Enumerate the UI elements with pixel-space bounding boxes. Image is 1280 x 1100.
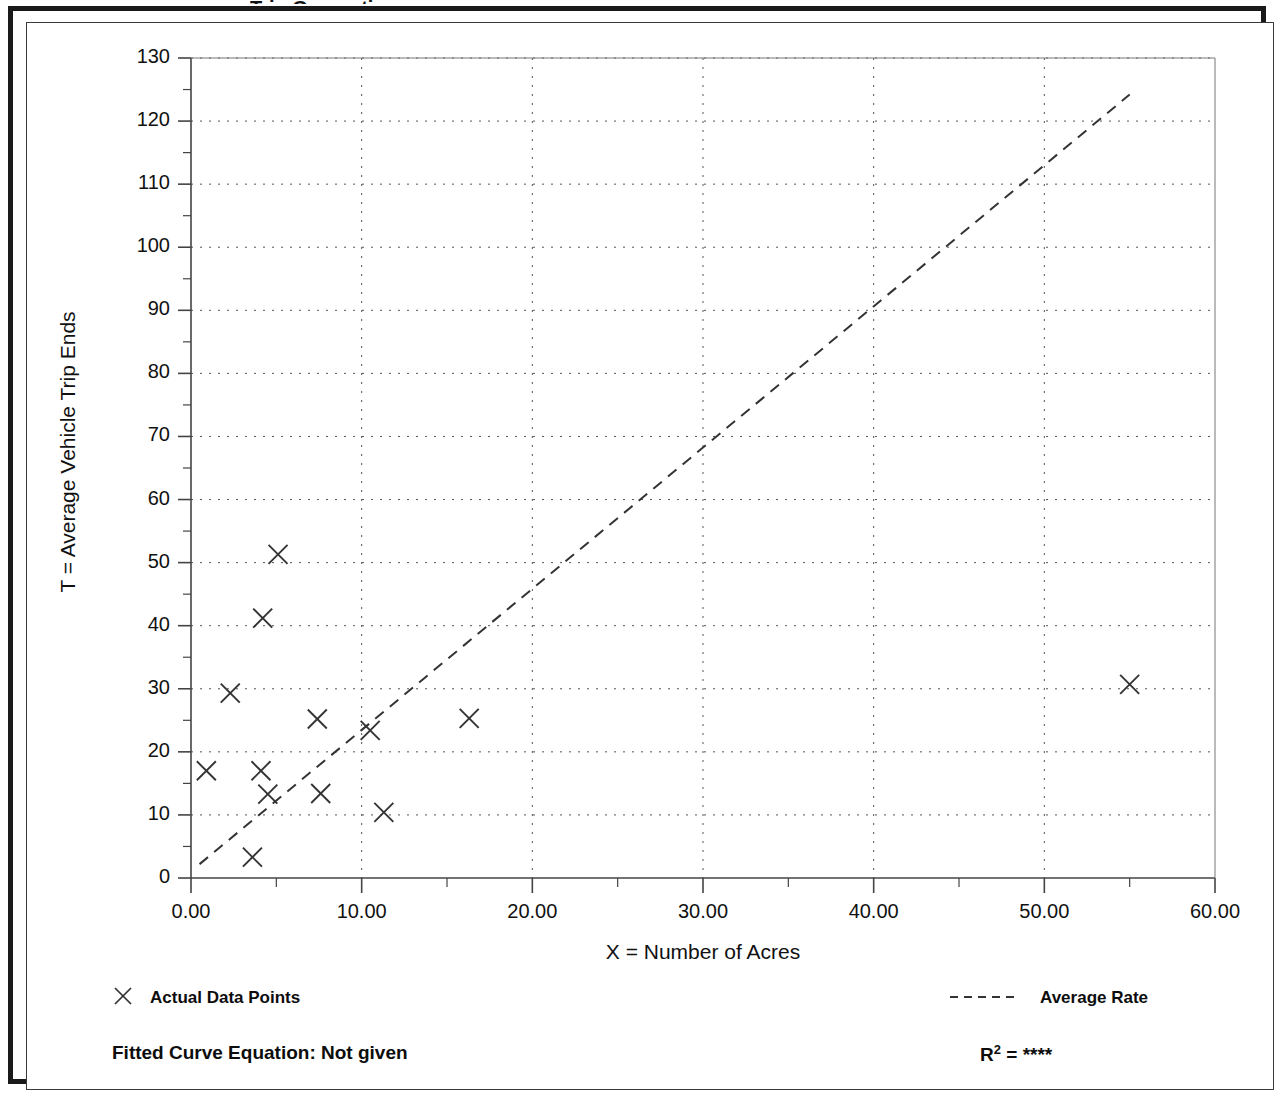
x-axis-tick-label: 0.00 [136,900,246,923]
data-point-marker [361,721,380,740]
average-rate-trendline [200,95,1130,865]
y-axis-tick-label: 10 [100,802,170,825]
r-squared-value: R2 = **** [980,1042,1052,1066]
y-axis-title: T = Average Vehicle Trip Ends [56,292,80,612]
r-exponent: 2 [994,1042,1001,1057]
fitted-curve-equation: Fitted Curve Equation: Not given [112,1042,408,1064]
trip-generation-scatter-figure: 0102030405060708090100110120130 0.0010.0… [0,0,1280,1100]
dashed-line-icon [950,996,1020,998]
x-axis-tick-label: 10.00 [307,900,417,923]
axes-layer [191,58,1215,878]
y-axis-tick-label: 30 [100,676,170,699]
data-point-marker [251,761,270,780]
x-marker-icon [112,985,134,1007]
y-axis-tick-label: 70 [100,423,170,446]
x-axis-tick-label: 60.00 [1160,900,1270,923]
y-axis-tick-label: 60 [100,487,170,510]
y-axis-tick-label: 0 [100,865,170,888]
y-axis-tick-label: 40 [100,613,170,636]
r-value: **** [1023,1044,1053,1065]
y-axis-tick-label: 50 [100,550,170,573]
y-axis-tick-label: 120 [100,108,170,131]
y-axis-tick-label: 80 [100,360,170,383]
data-point-marker [243,848,262,867]
ticks-layer [178,58,1215,893]
data-point-marker [1120,675,1139,694]
y-axis-tick-label: 110 [100,171,170,194]
r-symbol: R [980,1044,994,1065]
data-point-marker [311,784,330,803]
legend-label-actual-data-points: Actual Data Points [150,988,300,1008]
grid-layer [191,58,1215,878]
data-point-marker [253,609,272,628]
x-axis-tick-label: 50.00 [989,900,1099,923]
x-axis-tick-label: 40.00 [819,900,929,923]
y-axis-tick-label: 90 [100,297,170,320]
data-point-marker [197,761,216,780]
x-axis-tick-label: 30.00 [648,900,758,923]
x-axis-title: X = Number of Acres [191,940,1215,964]
r-equals: = [1001,1044,1023,1065]
plot-canvas [0,0,1280,1100]
y-axis-tick-label: 20 [100,739,170,762]
y-axis-tick-label: 130 [100,45,170,68]
data-point-marker [308,710,327,729]
data-point-marker [269,545,288,564]
data-point-marker [221,684,240,703]
legend-label-average-rate: Average Rate [1040,988,1148,1008]
data-point-marker [460,709,479,728]
y-axis-tick-label: 100 [100,234,170,257]
data-series-layer [197,95,1139,867]
data-point-marker [374,803,393,822]
x-axis-tick-label: 20.00 [477,900,587,923]
data-point-marker [258,785,277,804]
